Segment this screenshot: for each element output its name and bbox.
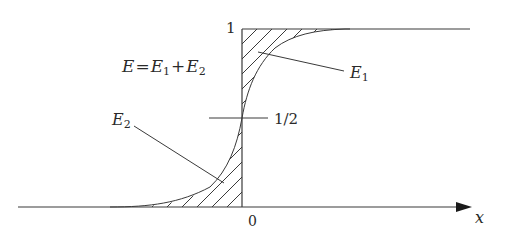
y-half-label: 1/2 [274,110,298,128]
hatch-region-e2 [152,97,262,207]
e1-label: E1 [349,63,369,84]
x-axis-arrow-icon [456,202,472,212]
e2-leader-line [134,126,224,183]
e2-label: E2 [111,110,131,131]
x-axis-label: x [475,208,484,227]
e1-leader-line [258,52,344,71]
diagram-canvas: 1 1/2 0 x E=E1+E2 E1 E2 [0,0,507,243]
x-origin-label: 0 [248,213,257,229]
hatch-region-e1 [222,29,332,109]
y-top-label: 1 [226,19,236,37]
equation-label: E=E1+E2 [121,56,206,78]
